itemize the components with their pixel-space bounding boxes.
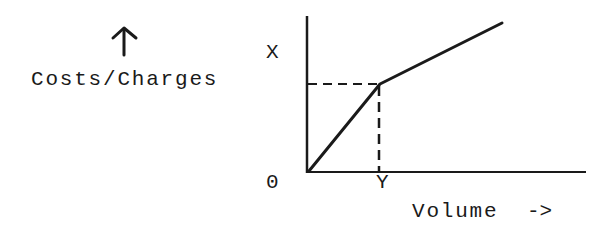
right-arrow-text: ->: [527, 201, 552, 222]
origin-label: 0: [266, 172, 279, 193]
y-axis-label: Costs/Charges: [31, 69, 218, 90]
y-marker-label: X: [266, 42, 279, 63]
up-arrow-icon: [113, 28, 136, 55]
x-marker-label: Y: [376, 172, 389, 193]
cost-line: [309, 23, 502, 171]
cost-volume-graph: [0, 0, 608, 235]
x-axis-label: Volume: [412, 201, 498, 222]
